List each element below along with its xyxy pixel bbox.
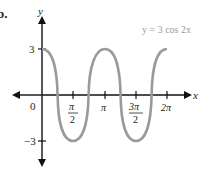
x-axis-label: x (192, 89, 198, 101)
tick-label-2pi: 2π (161, 102, 172, 113)
y-tick-neg3: −3 (24, 135, 36, 147)
problem-label: b. (0, 6, 7, 21)
cosine-graph: b. y x y = 3 cos 2x 3 −3 0 π 2 π 3π 2 2π (0, 0, 207, 173)
equation-label: y = 3 cos 2x (142, 24, 191, 35)
origin-label: 0 (30, 100, 36, 112)
y-tick-3: 3 (29, 43, 35, 55)
tick-label-3pi-over-2-den: 2 (133, 114, 138, 125)
tick-label-3pi-over-2-num: 3π (128, 101, 140, 112)
tick-label-pi-over-2-num: π (69, 101, 75, 112)
tick-label-pi: π (101, 102, 107, 113)
y-axis-label: y (37, 5, 43, 17)
tick-label-pi-over-2-den: 2 (70, 114, 75, 125)
